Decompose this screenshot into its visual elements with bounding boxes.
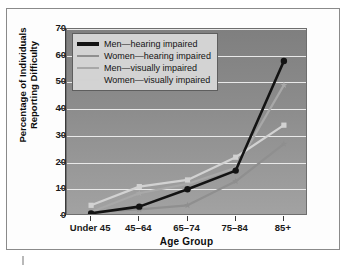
series-marker — [281, 58, 287, 64]
y-axis-title: Percentage of Individuals Reporting Diff… — [17, 10, 39, 160]
x-axis-tick-mark — [138, 216, 139, 221]
y-axis-tick-mark — [60, 162, 65, 163]
legend-swatch-icon — [77, 67, 99, 70]
x-axis-tick-mark — [283, 216, 284, 221]
series-marker — [185, 177, 190, 182]
legend-swatch-icon — [77, 55, 99, 58]
legend-item: Women—visually impaired — [77, 74, 211, 86]
figure-root: Percentage of Individuals Reporting Diff… — [0, 0, 348, 273]
y-axis-tick-mark — [60, 135, 65, 136]
series-marker — [89, 203, 94, 208]
series-marker — [137, 184, 142, 189]
legend-swatch-icon — [77, 79, 99, 82]
legend-item: Women—hearing impaired — [77, 50, 211, 62]
y-axis-tick-mark — [60, 108, 65, 109]
series-marker — [233, 167, 239, 173]
legend-label: Men—visually impaired — [104, 64, 197, 73]
series-marker — [184, 186, 190, 192]
y-axis-tick-mark — [60, 188, 65, 189]
x-axis-tick-label: Under 45 — [70, 223, 111, 233]
legend-item: Men—visually impaired — [77, 62, 211, 74]
y-axis-tick-mark — [60, 28, 65, 29]
x-axis-tick-label: 75–84 — [221, 223, 247, 233]
y-axis-title-line2: Reporting Difficulty — [28, 10, 39, 160]
series-marker — [281, 123, 286, 128]
plot-area: Men—hearing impairedWomen—hearing impair… — [66, 28, 307, 215]
x-axis-tick-mark — [235, 216, 236, 221]
legend-swatch-icon — [77, 42, 99, 45]
page-marker-tick — [22, 256, 24, 265]
x-axis-tick-mark — [90, 216, 91, 221]
series-marker — [233, 155, 238, 160]
x-axis-tick-label: 85+ — [275, 223, 291, 233]
legend-label: Men—hearing impaired — [104, 40, 198, 49]
y-axis-tick-mark — [60, 81, 65, 82]
y-axis-title-line1: Percentage of Individuals — [17, 10, 28, 160]
y-axis-tick-mark — [60, 55, 65, 56]
series-marker — [136, 203, 142, 209]
legend-item: Men—hearing impaired — [77, 38, 211, 50]
series-marker — [184, 202, 191, 209]
y-axis-tick-mark — [60, 215, 65, 216]
x-axis-tick-label: 45–64 — [125, 223, 151, 233]
x-axis-tick-label: 65–74 — [173, 223, 199, 233]
legend-label: Women—visually impaired — [104, 76, 210, 85]
x-axis-tick-mark — [187, 216, 188, 221]
legend: Men—hearing impairedWomen—hearing impair… — [72, 33, 218, 91]
x-axis-title: Age Group — [66, 236, 307, 247]
legend-label: Women—hearing impaired — [104, 52, 211, 61]
